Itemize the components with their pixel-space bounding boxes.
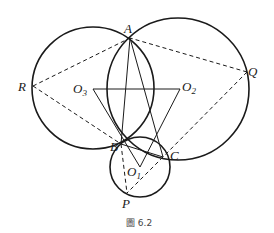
- label-P: P: [121, 196, 130, 211]
- dashed-QA: [130, 38, 247, 72]
- label-Q: Q: [248, 64, 258, 79]
- label-O1: O1: [127, 164, 141, 181]
- label-C: C: [170, 148, 179, 163]
- segment-AC: [130, 38, 163, 157]
- label-A: A: [123, 21, 132, 36]
- label-B: B: [110, 139, 118, 154]
- segment-O3O1: [93, 89, 140, 167]
- label-O3: O3: [73, 81, 87, 98]
- geometry-figure: A B C P Q R O3 O2 O1 圖 6.2: [0, 0, 274, 233]
- dashed-RA: [33, 38, 130, 86]
- label-O2: O2: [182, 79, 196, 96]
- circle-O3: [32, 27, 154, 149]
- label-R: R: [17, 79, 26, 94]
- dashed-QC: [163, 72, 247, 157]
- segment-AB: [121, 38, 130, 144]
- figure-caption: 圖 6.2: [126, 218, 152, 228]
